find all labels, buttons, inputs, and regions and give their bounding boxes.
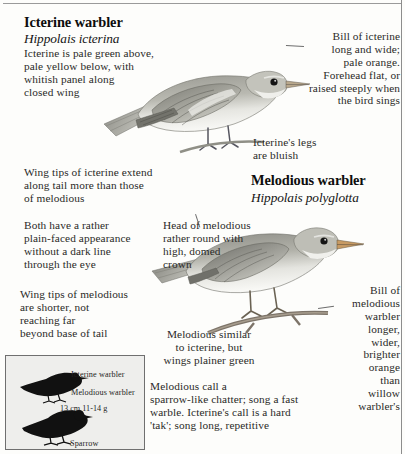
annotation-icterine-plumage: Icterine is pale green above, pale yello… xyxy=(24,47,199,99)
melodious-common-name: Melodious warbler xyxy=(251,172,366,189)
annotation-melodious-wingtips: Wing tips of melodious are shorter, not … xyxy=(20,288,162,340)
field-guide-page: Icterine warbler Hippolais icterina Icte… xyxy=(0,0,405,454)
melodious-scientific-name: Hippolais polyglotta xyxy=(251,190,359,206)
annotation-icterine-bill: Bill of icterine long and wide; pale ora… xyxy=(284,30,400,107)
annotation-calls: Melodious call a sparrow-like chatter; s… xyxy=(150,380,330,432)
inset-label-sparrow: Sparrow xyxy=(70,439,98,448)
page-rule-right xyxy=(401,0,402,454)
annotation-melodious-similar: Melodious similar to icterine, but wings… xyxy=(148,328,270,367)
icterine-scientific-name: Hippolais icterina xyxy=(24,31,119,47)
icterine-common-name: Icterine warbler xyxy=(24,14,123,31)
annotation-plain-faced: Both have a rather plain-faced appearanc… xyxy=(24,219,169,271)
size-comparison-inset: Icterine warbler Melodious warbler 13 cm… xyxy=(5,355,145,450)
inset-label-melodious: Melodious warbler xyxy=(71,388,135,397)
inset-size-measurement: 13 cm 11-14 g xyxy=(60,404,107,413)
annotation-melodious-head: Head of melodious rather round with high… xyxy=(163,219,278,271)
annotation-icterine-wingtips: Wing tips of icterine extend along tail … xyxy=(24,166,214,205)
annotation-icterine-legs: Icterine's legs are bluish xyxy=(253,136,393,162)
annotation-melodious-bill: Bill of melodious warbler longer, wider,… xyxy=(326,284,400,413)
inset-label-icterine: Icterine warbler xyxy=(71,370,125,379)
page-rule-top xyxy=(3,3,402,4)
